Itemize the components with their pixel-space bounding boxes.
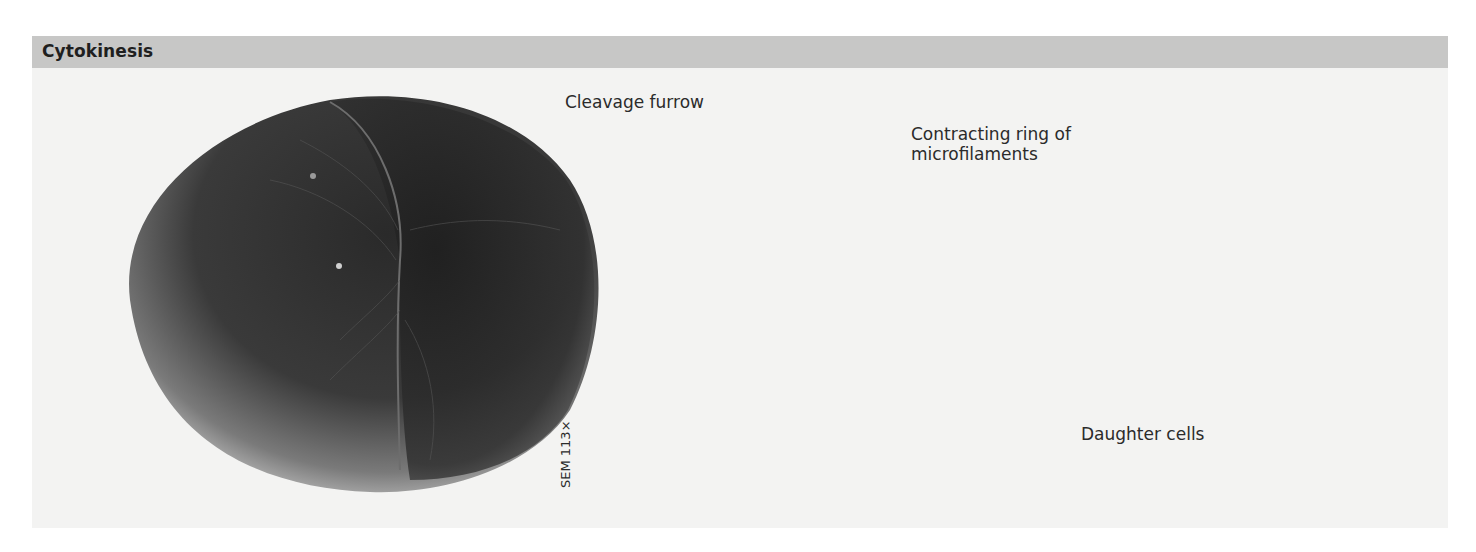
contracting-ring-label-line2: microfilaments (911, 144, 1038, 164)
sem-micrograph (129, 96, 598, 492)
cleavage-furrow-label: Cleavage furrow (565, 92, 704, 112)
daughter-cells-label: Daughter cells (1081, 424, 1204, 444)
micrograph-scale-label: SEM 113× (558, 420, 573, 488)
contracting-ring-label-line1: Contracting ring of (911, 124, 1071, 144)
cytokinesis-diagram (0, 0, 1476, 552)
